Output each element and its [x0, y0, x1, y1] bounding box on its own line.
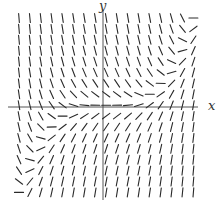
slope-segment — [149, 35, 151, 44]
slope-segment — [115, 68, 119, 76]
slope-segment — [182, 188, 183, 197]
slope-segment — [50, 90, 54, 98]
slope-segment — [149, 25, 151, 34]
slope-segment — [61, 155, 64, 164]
slope-segment — [61, 166, 63, 175]
slope-segment — [83, 57, 86, 66]
slope-segment — [135, 93, 143, 97]
slope-segment — [94, 155, 96, 164]
slope-segment — [179, 58, 185, 64]
slope-segment — [171, 166, 172, 175]
slope-segment — [18, 68, 19, 77]
slope-segment — [73, 177, 75, 186]
slope-segment — [137, 123, 141, 131]
slope-segment — [39, 167, 43, 175]
slope-segment — [105, 24, 107, 33]
slope-segment — [69, 114, 77, 118]
slope-segment — [193, 133, 194, 142]
slope-segment — [192, 47, 196, 55]
slope-segment — [29, 14, 30, 23]
slope-segment — [149, 188, 150, 197]
slope-segment — [26, 169, 34, 173]
slope-segment — [40, 35, 41, 44]
slope-segment — [84, 188, 86, 197]
slope-segment — [138, 166, 140, 175]
slope-segment — [71, 134, 75, 142]
slope-segment — [138, 46, 141, 55]
slope-segment — [158, 101, 163, 108]
slope-segment — [29, 79, 31, 88]
slope-segment — [170, 112, 173, 121]
slope-segment — [72, 166, 74, 175]
slope-segment — [138, 144, 141, 153]
slope-segment — [40, 68, 42, 77]
slope-segment — [51, 188, 53, 197]
slope-segment — [116, 35, 118, 44]
slope-segment — [115, 80, 120, 87]
slope-segment — [49, 145, 54, 153]
slope-segment — [170, 25, 173, 33]
slope-segment — [182, 133, 183, 142]
slope-segment — [160, 14, 162, 23]
slope-segment — [94, 57, 97, 66]
slope-segment — [171, 134, 173, 143]
slope-segment — [48, 113, 55, 118]
slope-segment — [137, 134, 140, 142]
slope-segment — [27, 178, 33, 185]
slope-segment — [39, 90, 42, 99]
slope-segment — [136, 113, 142, 120]
slope-segment — [181, 79, 184, 87]
slope-segment — [61, 68, 64, 77]
slope-segment — [94, 35, 96, 44]
slope-segment — [71, 79, 75, 87]
slope-segment — [29, 24, 30, 33]
slope-segment — [40, 79, 42, 88]
slope-segment — [72, 57, 75, 66]
slope-segment — [19, 14, 20, 23]
slope-segment — [72, 46, 74, 55]
slope-segment — [94, 166, 96, 175]
slope-segment — [171, 188, 172, 197]
slope-segment — [82, 80, 87, 88]
slope-segment — [160, 177, 161, 186]
slope-segment — [160, 188, 161, 197]
slope-segment — [61, 79, 65, 87]
slope-segment — [83, 166, 85, 175]
slope-segment — [116, 188, 117, 197]
slope-segment — [192, 68, 194, 77]
slope-segment — [94, 46, 96, 55]
slope-segment — [19, 35, 20, 44]
slope-segment — [114, 113, 121, 118]
slope-segment — [116, 177, 118, 186]
slope-segment — [95, 188, 96, 197]
slope-segment — [182, 144, 183, 153]
slope-segment — [190, 26, 197, 31]
slope-segment — [157, 70, 164, 76]
slope-segment — [105, 145, 108, 154]
slope-segment — [180, 69, 184, 77]
slope-segment — [127, 155, 129, 164]
slope-segment — [84, 177, 86, 186]
slope-segment — [105, 35, 107, 44]
slope-segment — [116, 57, 119, 66]
slope-segment — [191, 36, 196, 43]
slope-segment — [104, 80, 109, 87]
slope-segment — [127, 188, 128, 197]
slope-segment — [38, 156, 44, 163]
slope-segment — [29, 112, 32, 121]
slope-segment — [137, 57, 140, 65]
slope-segment — [160, 25, 162, 34]
slope-segment — [171, 123, 173, 132]
slope-segment — [180, 14, 184, 22]
slope-segment — [18, 134, 20, 143]
slope-segment — [73, 14, 74, 23]
slope-segment — [178, 50, 187, 52]
slope-segment — [116, 145, 119, 154]
slope-segment — [105, 46, 107, 55]
slope-segment — [105, 57, 108, 66]
slope-segment — [171, 177, 172, 186]
slope-segment — [182, 112, 184, 121]
slope-segment — [167, 71, 176, 73]
slope-segment — [104, 68, 108, 76]
slope-segment — [138, 35, 140, 44]
